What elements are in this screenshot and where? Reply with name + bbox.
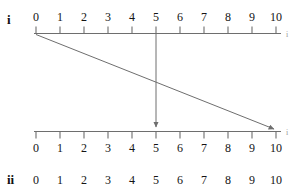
top-tick-label-6: 6 bbox=[173, 11, 187, 23]
top-tick-label-0: 0 bbox=[29, 11, 43, 23]
third-tick-label-3: 3 bbox=[101, 174, 115, 184]
third-tick-label-6: 6 bbox=[173, 174, 187, 184]
bottom-axis bbox=[34, 132, 281, 139]
bottom-tick-label-5: 5 bbox=[149, 142, 163, 154]
third-tick-label-7: 7 bbox=[197, 174, 211, 184]
top-axis bbox=[34, 27, 281, 34]
bottom-tick-label-0: 0 bbox=[29, 142, 43, 154]
top-tick-label-8: 8 bbox=[221, 11, 235, 23]
third-tick-label-4: 4 bbox=[125, 174, 139, 184]
third-tick-label-0: 0 bbox=[29, 174, 43, 184]
top-tick-label-4: 4 bbox=[125, 11, 139, 23]
top-tick-label-2: 2 bbox=[77, 11, 91, 23]
third-tick-label-8: 8 bbox=[221, 174, 235, 184]
row-label-ii: ii bbox=[7, 173, 14, 184]
diagram-canvas: i 0 1 2 3 4 5 6 7 8 9 10 0 1 2 3 4 5 6 7… bbox=[0, 0, 293, 184]
third-tick-label-5: 5 bbox=[149, 174, 163, 184]
bottom-tick-label-10: 10 bbox=[269, 142, 283, 154]
third-tick-label-1: 1 bbox=[53, 174, 67, 184]
top-axis-edge-mark: i bbox=[286, 31, 288, 39]
bottom-tick-label-9: 9 bbox=[245, 142, 259, 154]
third-row-clipped: ii 0 1 2 3 4 5 6 7 8 9 10 bbox=[0, 173, 293, 184]
third-tick-label-9: 9 bbox=[245, 174, 259, 184]
bottom-tick-label-6: 6 bbox=[173, 142, 187, 154]
top-axis-ticks bbox=[36, 27, 276, 34]
bottom-tick-label-4: 4 bbox=[125, 142, 139, 154]
bottom-tick-label-8: 8 bbox=[221, 142, 235, 154]
bottom-axis-ticks bbox=[36, 132, 276, 139]
bottom-tick-label-3: 3 bbox=[101, 142, 115, 154]
top-tick-label-7: 7 bbox=[197, 11, 211, 23]
third-tick-label-2: 2 bbox=[77, 174, 91, 184]
top-tick-label-10: 10 bbox=[269, 11, 283, 23]
top-tick-label-9: 9 bbox=[245, 11, 259, 23]
bottom-tick-label-2: 2 bbox=[77, 142, 91, 154]
mapping-arrows bbox=[36, 34, 274, 129]
top-tick-label-5: 5 bbox=[149, 11, 163, 23]
number-line-mapping-svg bbox=[0, 0, 293, 184]
top-tick-label-1: 1 bbox=[53, 11, 67, 23]
bottom-axis-edge-mark: i bbox=[286, 129, 288, 137]
top-tick-label-3: 3 bbox=[101, 11, 115, 23]
bottom-tick-label-1: 1 bbox=[53, 142, 67, 154]
third-tick-label-10: 10 bbox=[269, 174, 283, 184]
row-label-i: i bbox=[7, 13, 11, 26]
bottom-tick-label-7: 7 bbox=[197, 142, 211, 154]
arrow-0-to-10 bbox=[36, 35, 274, 130]
